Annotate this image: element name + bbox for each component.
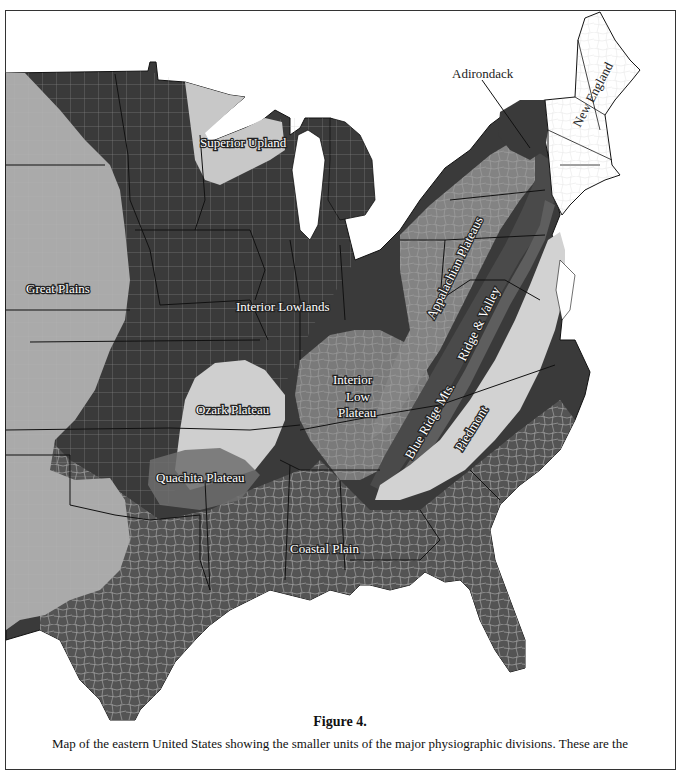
label-quachita-plateau: Quachita Plateau [156,470,245,485]
figure-caption: Map of the eastern United States showing… [0,736,680,752]
label-interior-low-plateau-line2: Low [346,389,370,404]
label-interior-lowlands: Interior Lowlands [236,299,330,314]
label-superior-upland: Superior Upland [200,135,287,150]
figure-title: Figure 4. [0,714,680,730]
label-coastal-plain: Coastal Plain [290,541,359,556]
label-interior-low-plateau-line3: Plateau [338,405,377,420]
label-adirondack: Adirondack [452,66,514,81]
label-ozark-plateau: Ozark Plateau [196,402,270,417]
label-great-plains: Great Plains [26,281,90,296]
label-interior-low-plateau-line1: Interior [333,372,373,387]
